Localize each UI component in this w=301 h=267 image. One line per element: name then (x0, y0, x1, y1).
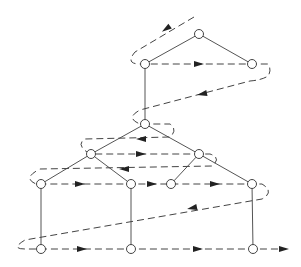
arrowhead-icon (160, 24, 172, 35)
tree-node (167, 180, 176, 189)
tree-traversal-diagram (0, 0, 301, 267)
tree-node (37, 180, 46, 189)
tree-edge (171, 154, 199, 184)
tree-node (248, 180, 257, 189)
traversal-path (18, 17, 286, 249)
tree-node (127, 245, 136, 254)
tree-edge (252, 184, 253, 249)
tree-node (127, 180, 136, 189)
tree-edge (199, 154, 252, 184)
tree-edge (199, 34, 252, 64)
tree-node (141, 60, 150, 69)
arrowhead-icon (147, 181, 157, 187)
tree-edge (145, 124, 199, 154)
tree-node (249, 245, 258, 254)
tree-edge (145, 34, 199, 64)
tree-node (87, 150, 96, 159)
arrowhead-icon (196, 90, 207, 98)
direction-arrows (75, 24, 289, 252)
arrowhead-icon (75, 181, 85, 187)
arrowhead-icon (77, 246, 87, 252)
arrowhead-icon (136, 151, 146, 157)
tree-nodes (37, 30, 258, 254)
arrowhead-icon (210, 181, 220, 187)
tree-node (195, 30, 204, 39)
arrowhead-icon (136, 136, 146, 142)
tree-node (248, 60, 257, 69)
tree-node (141, 120, 150, 129)
arrowhead-icon (194, 61, 204, 67)
arrowhead-icon (279, 246, 289, 252)
tree-node (195, 150, 204, 159)
arrowhead-icon (119, 166, 129, 172)
tree-node (37, 245, 46, 254)
arrowhead-icon (193, 246, 203, 252)
